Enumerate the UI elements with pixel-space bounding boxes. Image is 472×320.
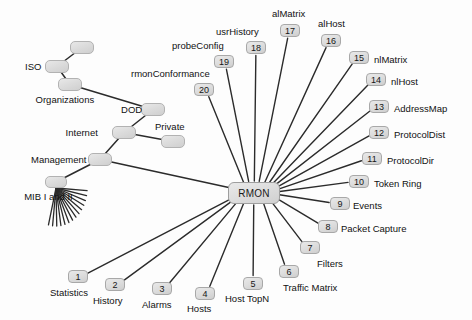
rmon-spoke-edge <box>210 204 244 287</box>
rmon-group-label-12: ProtocolDist <box>394 130 445 140</box>
rmon-group-badge-12[interactable]: 12 <box>369 126 389 139</box>
rmon-group-label-20: rmonConformance <box>131 69 210 79</box>
rmon-group-label-5: Host TopN <box>225 294 269 304</box>
rmon-group-label-17: alMatrix <box>272 9 305 19</box>
rmon-group-badge-10[interactable]: 10 <box>349 175 369 188</box>
rmon-group-label-11: ProtocolDir <box>387 156 434 166</box>
rmon-group-label-2: History <box>93 296 123 306</box>
internet-node-label: Internet <box>66 128 98 138</box>
rmon-spoke-edge <box>259 38 287 181</box>
rmon-group-number: 5 <box>250 279 255 289</box>
rmon-group-badge-2[interactable]: 2 <box>105 278 125 291</box>
rmon-group-number: 20 <box>199 85 209 95</box>
rmon-group-badge-9[interactable]: 9 <box>330 197 350 210</box>
rmon-spoke-edge <box>209 97 244 182</box>
rmon-group-number: 17 <box>285 26 295 36</box>
rmon-group-label-14: nlHost <box>391 77 418 87</box>
organizations-node[interactable] <box>58 78 82 91</box>
rmon-mib-tree-diagram: ISOOrganizationsDODInternetPrivateManage… <box>0 0 472 320</box>
rmon-group-label-13: AddressMap <box>394 104 447 114</box>
rmon-group-label-1: Statistics <box>50 288 88 298</box>
rmon-group-number: 10 <box>354 177 364 187</box>
rmon-group-badge-18[interactable]: 18 <box>246 41 266 54</box>
rmon-spoke-edge <box>88 198 232 273</box>
rmon-spoke-edge <box>253 205 254 276</box>
rmon-group-label-16: alHost <box>318 19 345 29</box>
rmon-group-label-7: Filters <box>317 259 343 269</box>
rmon-group-number: 19 <box>219 57 229 67</box>
rmon-group-label-19: probeConfig <box>172 41 224 51</box>
dod-node-label: DOD <box>121 105 142 115</box>
rmon-group-label-8: Packet Capture <box>341 224 406 234</box>
rmon-group-badge-1[interactable]: 1 <box>68 270 88 283</box>
iso-node-label: ISO <box>25 62 41 72</box>
rmon-group-badge-20[interactable]: 20 <box>194 83 214 96</box>
rmon-spoke-edge <box>254 55 256 181</box>
rmon-hub-node[interactable]: RMON <box>228 182 280 204</box>
rmon-group-number: 16 <box>326 36 336 46</box>
rmon-group-badge-4[interactable]: 4 <box>195 287 215 300</box>
private-node[interactable] <box>161 135 185 148</box>
organizations-node-label: Organizations <box>36 95 95 105</box>
rmon-group-number: 7 <box>307 243 312 253</box>
management-node-label: Management <box>31 155 86 165</box>
rmon-spoke-edge <box>278 194 329 202</box>
rmon-group-label-18: usrHistory <box>216 27 259 37</box>
rmon-group-badge-11[interactable]: 11 <box>362 152 382 165</box>
rmon-group-number: 11 <box>367 154 376 164</box>
rmon-group-badge-15[interactable]: 15 <box>349 51 369 64</box>
rmon-group-number: 9 <box>337 199 342 209</box>
rmon-spoke-edge <box>226 69 248 181</box>
rmon-spoke-edge <box>271 201 302 242</box>
internet-node[interactable] <box>112 126 136 139</box>
rmon-group-label-10: Token Ring <box>374 179 422 189</box>
rmon-group-badge-19[interactable]: 19 <box>214 55 234 68</box>
private-node-label: Private <box>155 122 185 132</box>
rmon-group-badge-8[interactable]: 8 <box>318 220 338 233</box>
rmon-group-badge-6[interactable]: 6 <box>279 265 299 278</box>
rmon-group-number: 12 <box>374 128 384 138</box>
rmon-group-number: 8 <box>325 222 330 232</box>
rmon-spoke-edge <box>278 182 348 191</box>
rmon-group-number: 18 <box>251 43 261 53</box>
iso-node[interactable] <box>45 60 69 73</box>
management-node[interactable] <box>88 153 112 166</box>
dod-node[interactable] <box>141 103 165 116</box>
rmon-group-number: 4 <box>202 289 207 299</box>
rmon-group-label-6: Traffic Matrix <box>283 283 337 293</box>
rmon-group-number: 13 <box>374 102 384 112</box>
rmon-group-number: 14 <box>371 75 381 85</box>
rmon-group-label-15: nlMatrix <box>374 55 407 65</box>
rmon-group-number: 15 <box>354 53 364 63</box>
rmon-group-badge-14[interactable]: 14 <box>366 73 386 86</box>
rmon-group-label-9: Events <box>353 201 382 211</box>
rmon-group-number: 1 <box>75 272 80 282</box>
rmon-group-number: 6 <box>286 267 291 277</box>
rmon-hub-label: RMON <box>238 188 269 199</box>
rmon-group-badge-13[interactable]: 13 <box>369 100 389 113</box>
rmon-group-badge-17[interactable]: 17 <box>280 24 300 37</box>
mib-node[interactable] <box>45 176 67 188</box>
rmon-group-label-3: Alarms <box>142 300 172 310</box>
rmon-group-number: 3 <box>159 284 164 294</box>
rmon-group-badge-16[interactable]: 16 <box>321 34 341 47</box>
rmon-group-label-4: Hosts <box>187 304 211 314</box>
rmon-group-badge-3[interactable]: 3 <box>152 282 172 295</box>
rmon-group-badge-7[interactable]: 7 <box>300 241 320 254</box>
rmon-group-badge-5[interactable]: 5 <box>243 277 263 290</box>
iso-parent-node[interactable] <box>70 41 94 54</box>
rmon-spoke-edge <box>276 198 318 223</box>
rmon-spoke-edge <box>264 204 285 264</box>
mib-node-label: MIB I and II <box>24 192 73 202</box>
rmon-group-number: 2 <box>112 280 117 290</box>
